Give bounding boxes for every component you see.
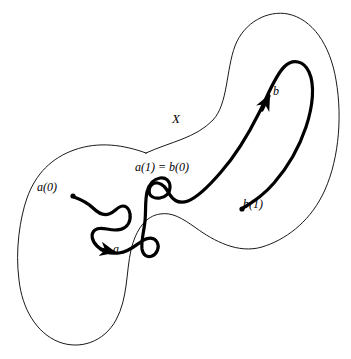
path-b-curve	[149, 62, 313, 208]
path-a-start-label: a(0)	[37, 181, 57, 193]
path-a-curve	[74, 178, 170, 257]
junction-label: a(1) = b(0)	[135, 161, 189, 173]
path-a-start-dot	[70, 193, 75, 198]
path-b-end-label: b(1)	[243, 198, 263, 210]
path-a-label: a	[113, 243, 119, 255]
path-b-label: b	[273, 85, 279, 97]
topology-path-concatenation-figure: X a(0) a a(1) = b(0) b b(1)	[0, 0, 351, 359]
space-label-x: X	[172, 112, 180, 125]
